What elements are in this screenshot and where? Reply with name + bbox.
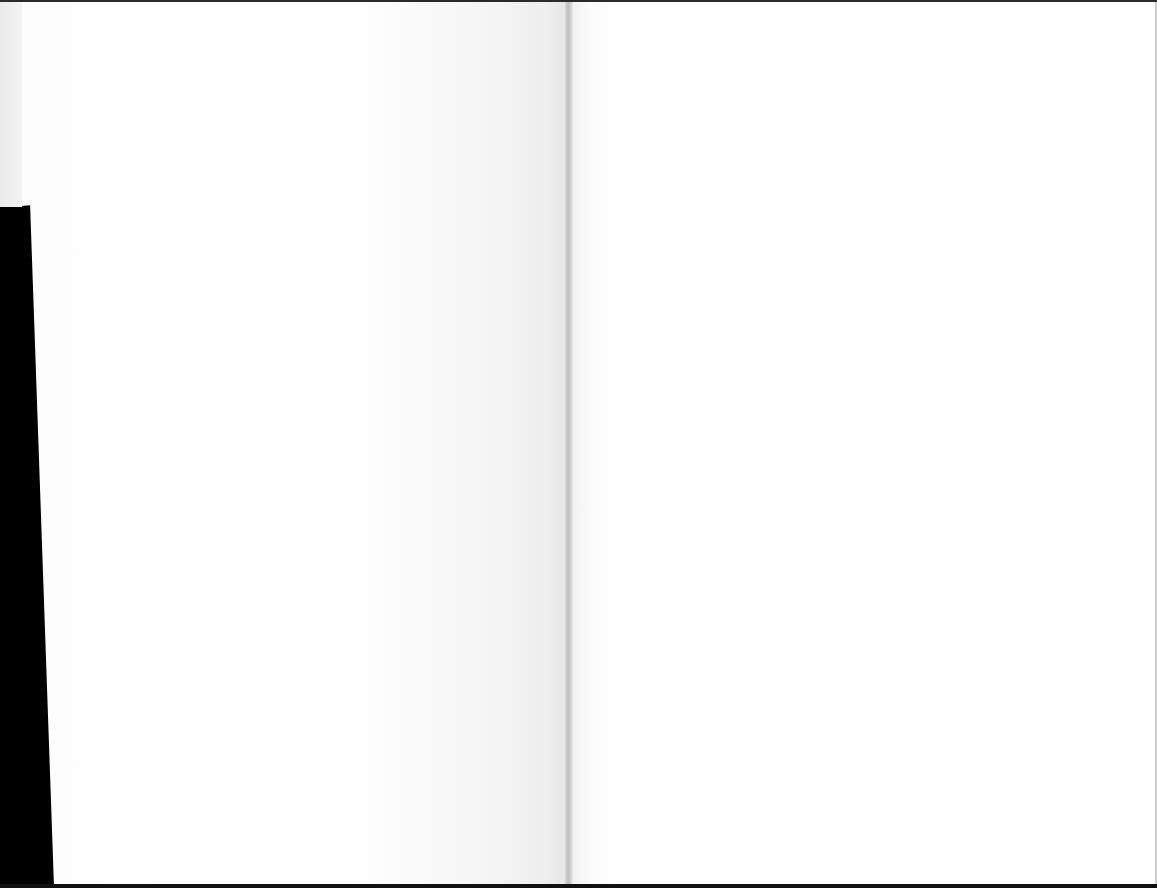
left-page (0, 2, 568, 886)
right-page (573, 2, 1155, 884)
scanned-spread (0, 0, 1157, 888)
book-gutter (565, 0, 573, 888)
bottom-scan-edge (0, 884, 1157, 888)
top-scan-edge (0, 0, 1157, 2)
left-page-edge-flap (0, 2, 22, 207)
